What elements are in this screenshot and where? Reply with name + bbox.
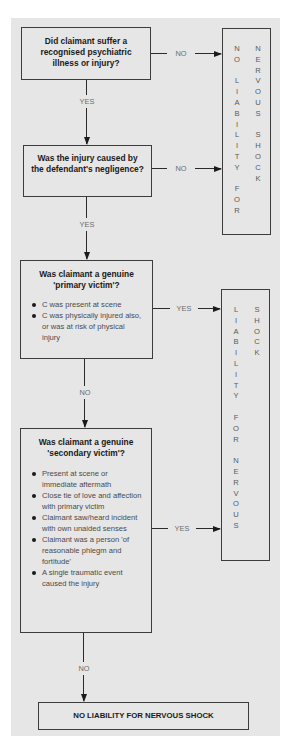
edge-label-no: NO [72,662,96,675]
edge-label-yes: YES [170,304,198,313]
question-box-primary-victim: Was claimant a genuine 'primary victim'?… [20,260,153,359]
criteria-list: C was present at scene C was physically … [29,299,144,343]
vertical-text-col-2: N E R V O U S S H O C K [253,44,263,184]
question-text: Did claimant suffer a recognised psychia… [28,36,144,69]
final-outcome-box: NO LIABILITY FOR NERVOUS SHOCK [38,702,249,730]
arrow-right-icon [214,51,222,57]
vertical-text-col-1: N O L I A B I L I T Y F O R [232,44,242,217]
edge-label-no: NO [167,49,195,58]
edge-label-yes: YES [74,95,100,108]
question-text: Was claimant a genuine 'primary victim'? [29,269,144,291]
arrow-right-icon [214,166,222,172]
outcome-box-liability: L I A B I L I T Y F O R N E R V O U S S … [221,289,270,561]
question-box-negligence: Was the injury caused by the defendant's… [23,145,152,197]
question-box-secondary-victim: Was claimant a genuine 'secondary victim… [20,428,152,633]
question-text: Was the injury caused by the defendant's… [30,153,145,175]
edge-label-yes: YES [74,218,100,231]
arrow-down-icon [84,137,90,145]
criteria-item: C was present at scene [29,299,144,310]
question-text: Was claimant a genuine 'secondary victim… [29,437,143,459]
arrow-down-icon [81,694,87,702]
criteria-item: Claimant was a person 'of reasonable phl… [29,534,143,567]
question-box-psychiatric-illness: Did claimant suffer a recognised psychia… [21,27,151,80]
edge-line [86,80,87,144]
criteria-item: C was physically injured also, or was at… [29,310,144,343]
arrow-right-icon [213,306,221,312]
arrow-down-icon [84,252,90,260]
final-outcome-text: NO LIABILITY FOR NERVOUS SHOCK [39,703,248,729]
criteria-item: A single traumatic event caused the inju… [29,567,143,589]
arrow-right-icon [213,526,221,532]
criteria-list: Present at scene or immediate aftermath … [29,468,143,589]
criteria-item: Present at scene or immediate aftermath [29,468,143,490]
vertical-text-col-2: S H O C K [252,305,262,359]
edge-label-no: NO [167,164,195,173]
edge-label-no: NO [73,386,97,399]
arrow-down-icon [82,420,88,428]
criteria-item: Claimant saw/heard incident with own una… [29,512,143,534]
edge-label-yes: YES [168,524,196,533]
vertical-text-col-1: L I A B I L I T Y F O R N E R V O U S [231,305,241,532]
criteria-item: Close tie of love and affection with pri… [29,490,143,512]
outcome-box-no-liability: N O L I A B I L I T Y F O R N E R V O U … [222,28,271,235]
